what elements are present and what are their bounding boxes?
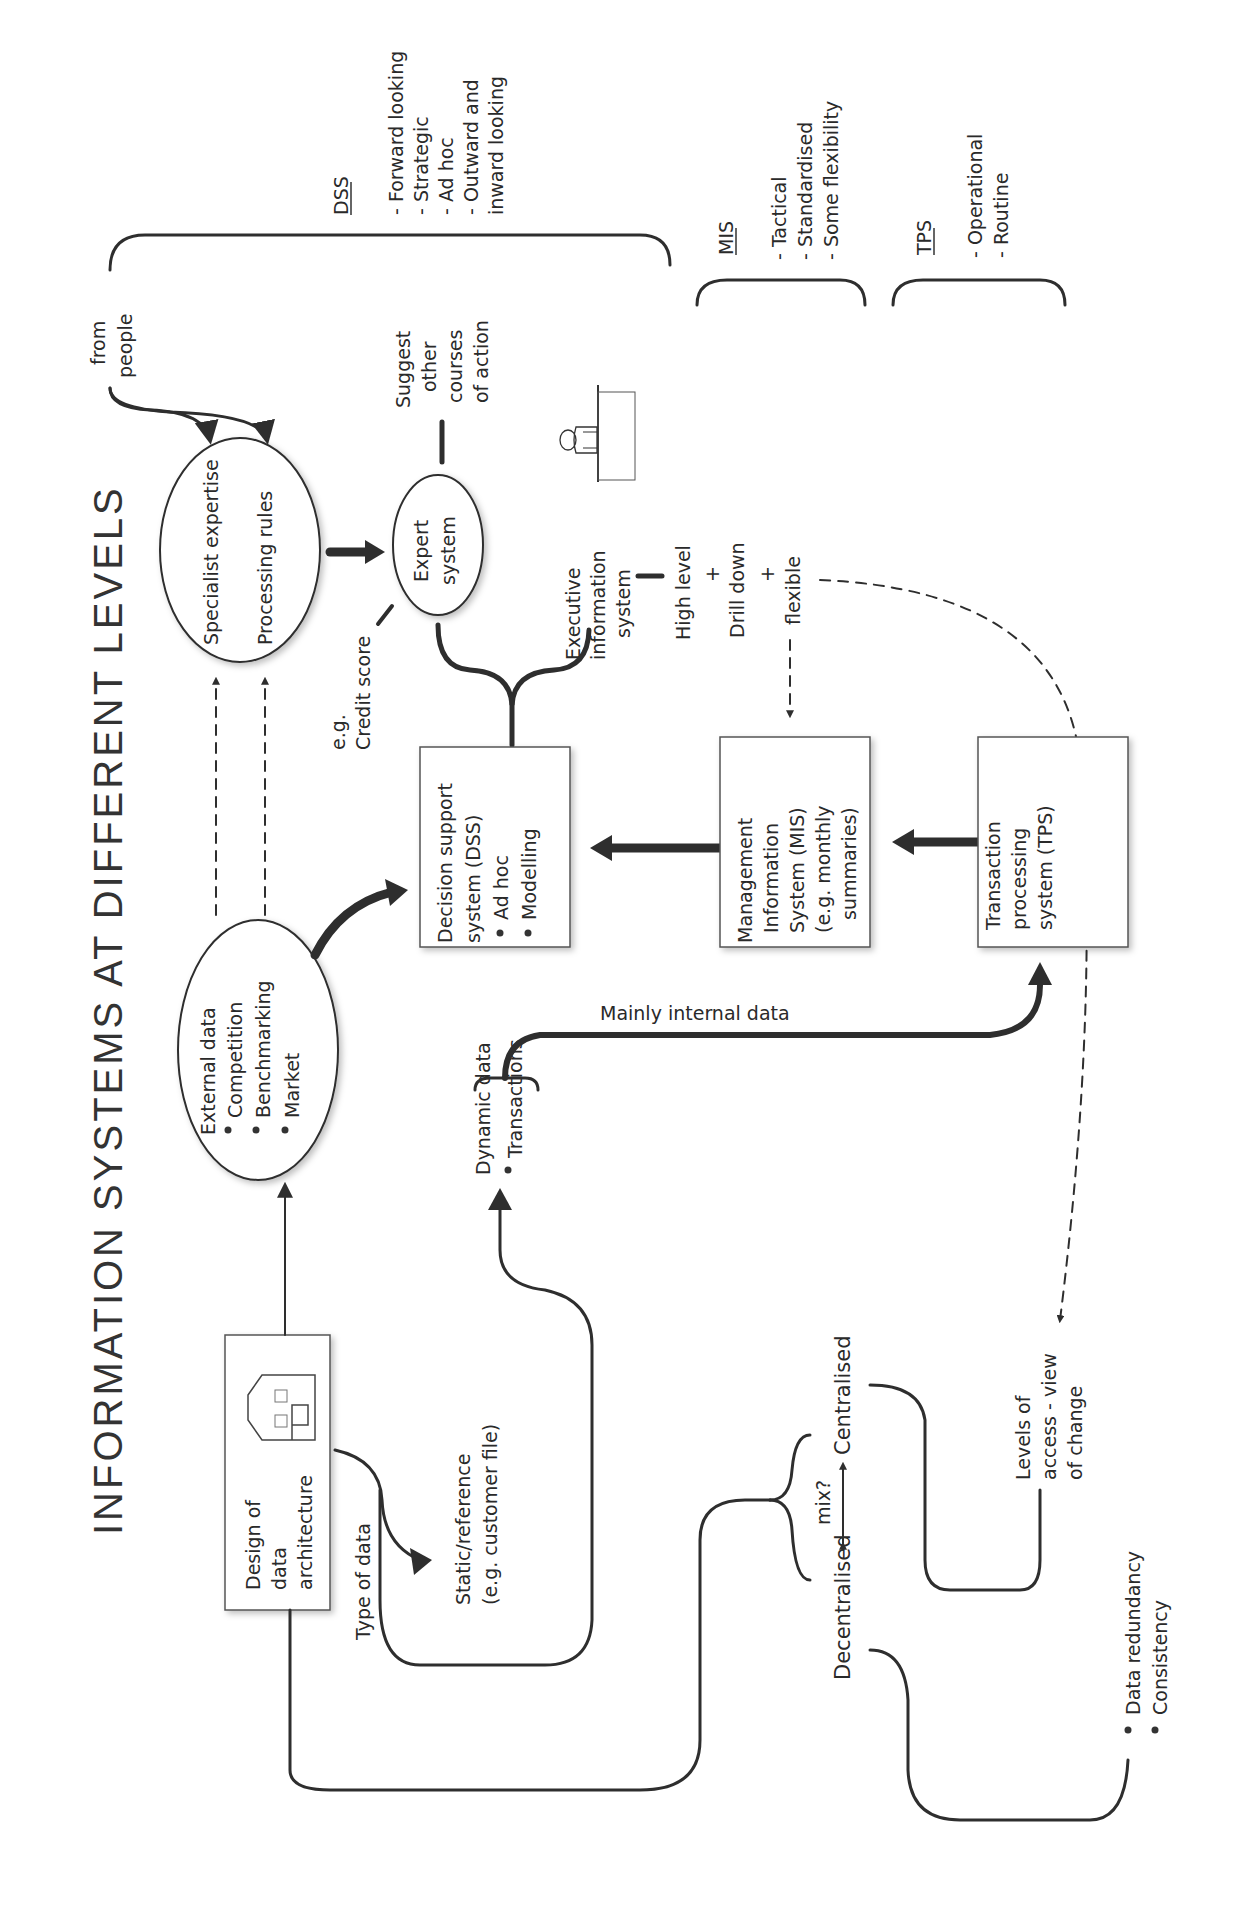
dynamic-to-tps-arrow xyxy=(505,985,1040,1078)
eis-text: system xyxy=(612,569,634,638)
mis-box-text: (e.g. monthly xyxy=(812,806,834,933)
mix-label: mix? xyxy=(812,1480,834,1525)
mis-box-text: Management xyxy=(734,818,756,943)
legend-mis-item: - Tactical xyxy=(768,176,790,260)
levels-access-text: Levels of xyxy=(1012,1394,1034,1480)
legend-dss: DSS - Forward looking - Strategic - Ad h… xyxy=(110,51,670,270)
eis-feature: Drill down xyxy=(726,542,748,638)
legend-dss-item: - Forward looking xyxy=(385,51,407,215)
legend-mis-item: - Some flexibility xyxy=(820,101,842,260)
legend-mis: MIS - Tactical - Standardised - Some fle… xyxy=(697,101,865,305)
external-data-bullet: Benchmarking xyxy=(252,980,274,1118)
eis-text: information xyxy=(587,550,609,660)
eis-feature: + xyxy=(701,566,723,582)
dss-brace xyxy=(110,235,670,270)
branch-centralised xyxy=(770,1435,810,1500)
page-title: INFORMATION SYSTEMS AT DIFFERENT LEVELS xyxy=(86,485,130,1535)
arrowhead xyxy=(410,1548,432,1575)
legend-dss-label: DSS xyxy=(330,176,352,215)
type-to-static-arrow xyxy=(335,1450,420,1560)
branch-decentralised xyxy=(770,1500,810,1580)
bullet-icon xyxy=(497,930,504,937)
legend-tps-item: - Routine xyxy=(990,173,1012,258)
people-to-rules-arrow xyxy=(110,388,267,440)
static-ref-text: Static/reference xyxy=(452,1454,474,1605)
eis-text: Executive xyxy=(562,567,584,660)
design-box-text: data xyxy=(268,1547,290,1590)
eis-to-levels-dashed-arrow xyxy=(820,580,1087,1320)
expert-system-text: Expert xyxy=(410,520,432,582)
redundancy-text: Data redundancy xyxy=(1122,1551,1144,1715)
eis-feature: flexible xyxy=(782,556,804,625)
external-to-dss-arrow xyxy=(315,892,392,955)
suggest-text: other xyxy=(418,341,440,392)
legend-dss-item: - Strategic xyxy=(410,116,432,215)
arrowhead xyxy=(365,540,385,564)
arrowhead xyxy=(385,879,408,906)
bullet-icon xyxy=(525,930,532,937)
dynamic-data-heading: Dynamic data xyxy=(472,1042,494,1175)
decentralised-label: Decentralised xyxy=(831,1535,855,1680)
legend-tps-label: TPS xyxy=(913,220,935,256)
tps-brace xyxy=(893,280,1065,305)
mis-brace xyxy=(697,280,865,305)
type-of-data-label: Type of data xyxy=(352,1523,374,1641)
tps-box-text: Transaction xyxy=(982,821,1004,931)
expert-system-text: system xyxy=(437,516,459,585)
suggest-text: of action xyxy=(470,320,492,403)
eis-feature: High level xyxy=(672,545,694,640)
static-ref-text: (e.g. customer file) xyxy=(479,1424,501,1605)
from-people-text: from xyxy=(87,321,109,365)
bullet-icon xyxy=(1152,1727,1159,1734)
external-data-bullet: Market xyxy=(281,1053,303,1118)
legend-dss-item: inward looking xyxy=(485,76,507,215)
decentralised-to-redundancy-connector xyxy=(870,1650,1128,1820)
dss-box-text: system (DSS) xyxy=(462,815,484,943)
mis-box-text: System (MIS) xyxy=(786,807,808,933)
arrowhead xyxy=(892,829,914,855)
suggest-text: Suggest xyxy=(392,331,414,408)
mis-box-text: summaries) xyxy=(838,807,860,920)
tps-box-text: system (TPS) xyxy=(1034,805,1056,930)
specialist-text: Specialist expertise xyxy=(200,459,222,645)
eis-feature: + xyxy=(756,566,778,582)
specialist-ellipse xyxy=(160,438,320,662)
redundancy-text: Consistency xyxy=(1149,1600,1171,1715)
credit-score-text: e.g. xyxy=(327,714,349,750)
diagram-canvas: INFORMATION SYSTEMS AT DIFFERENT LEVELS … xyxy=(0,0,1247,1927)
mis-box-text: Information xyxy=(760,823,782,933)
dss-box-bullet: Modelling xyxy=(518,828,540,920)
suggest-text: courses xyxy=(444,330,466,403)
external-data-bullet: Competition xyxy=(224,1002,246,1118)
dss-box-text: Decision support xyxy=(434,783,456,943)
arrowhead xyxy=(1028,962,1052,985)
external-data-heading: External data xyxy=(197,1007,219,1135)
bullet-icon xyxy=(225,1127,232,1134)
dss-box-bullet: Ad hoc xyxy=(490,855,512,920)
arrowhead xyxy=(488,1188,512,1210)
person-at-desk-icon xyxy=(560,385,635,482)
bullet-icon xyxy=(282,1127,289,1134)
centralised-label: Centralised xyxy=(831,1336,855,1456)
legend-tps-item: - Operational xyxy=(964,134,986,258)
bullet-icon xyxy=(253,1127,260,1134)
legend-dss-item: - Outward and xyxy=(460,79,482,215)
legend-mis-label: MIS xyxy=(715,221,737,255)
from-people-text: people xyxy=(114,314,136,378)
bullet-icon xyxy=(1125,1727,1132,1734)
legend-tps: TPS - Operational - Routine xyxy=(893,134,1065,305)
legend-mis-item: - Standardised xyxy=(794,122,816,260)
tps-box-text: processing xyxy=(1008,828,1030,930)
levels-access-text: of change xyxy=(1064,1386,1086,1480)
arrowhead xyxy=(590,835,612,861)
legend-dss-item: - Ad hoc xyxy=(435,137,457,215)
levels-access-text: access - view xyxy=(1038,1353,1060,1480)
credit-score-text: Credit score xyxy=(352,636,374,750)
design-box-text: architecture xyxy=(294,1475,316,1590)
processing-text: Processing rules xyxy=(254,491,276,645)
bullet-icon xyxy=(505,1167,512,1174)
mainly-internal-label: Mainly internal data xyxy=(600,1002,790,1024)
credit-score-connector xyxy=(378,606,392,624)
design-box-text: Design of xyxy=(242,1499,264,1590)
